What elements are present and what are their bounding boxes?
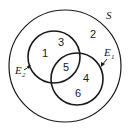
universe-label: S: [106, 9, 112, 21]
region-outside: 2: [90, 28, 96, 40]
region-e1-only-4: 4: [83, 72, 89, 84]
region-e2-only-3: 3: [58, 36, 64, 48]
set-e1-subscript: 1: [111, 53, 115, 61]
set-e1-label: E: [103, 46, 111, 58]
region-intersection: 5: [63, 61, 69, 73]
set-e2-subscript: 2: [22, 71, 26, 79]
region-e1-only-6: 6: [75, 87, 81, 99]
region-e2-only-1: 1: [42, 47, 48, 59]
set-e2-circle: [28, 31, 80, 83]
set-e2-label: E: [14, 64, 22, 76]
venn-diagram: S 2 3 1 5 4 6 E 2 E 1: [0, 0, 129, 132]
